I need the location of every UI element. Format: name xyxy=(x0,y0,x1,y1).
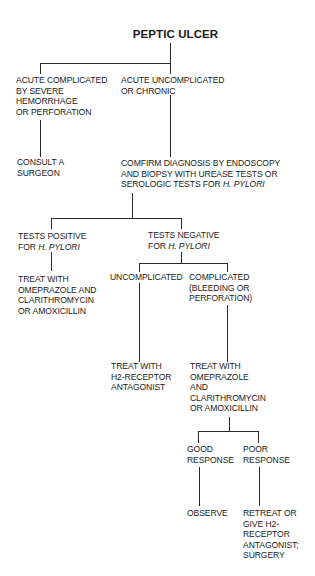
node-observe: OBSERVE xyxy=(187,508,228,519)
node-complicated: COMPLICATED (BLEEDING OR PERFORATION) xyxy=(189,272,252,304)
node-acute-uncomplicated: ACUTE UNCOMPLICATED OR CHRONIC xyxy=(121,75,224,96)
node-treat-positive: TREAT WITH OMEPRAZOLE AND CLARITHROMYCIN… xyxy=(18,274,96,316)
node-tests-negative: TESTS NEGATIVE FOR H. PYLORI xyxy=(148,230,220,251)
diagram-title: PEPTIC ULCER xyxy=(0,28,315,40)
node-acute-complicated: ACUTE COMPLICATED BY SEVERE HEMORRHAGE O… xyxy=(16,75,107,117)
node-good-response: GOOD RESPONSE xyxy=(187,444,234,465)
node-uncomplicated: UNCOMPLICATED xyxy=(110,272,183,283)
node-retreat: RETREAT OR GIVE H2- RECEPTOR ANTAGONIST;… xyxy=(243,508,299,561)
node-consult-surgeon: CONSULT A SURGEON xyxy=(17,157,64,178)
node-poor-response: POOR RESPONSE xyxy=(243,444,290,465)
node-tests-positive: TESTS POSITIVE FOR H. PYLORI xyxy=(18,231,86,252)
node-treat-complicated: TREAT WITH OMEPRAZOLE AND CLARITHROMYCIN… xyxy=(190,361,266,414)
node-treat-h2: TREAT WITH H2-RECEPTOR ANTAGONIST xyxy=(111,361,171,393)
node-confirm-diagnosis: COMFIRM DIAGNOSIS BY ENDOSCOPY AND BIOPS… xyxy=(121,158,280,190)
